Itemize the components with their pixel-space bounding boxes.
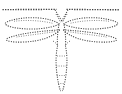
wing-upper-right-group	[64, 18, 118, 29]
wing-upper-left-outline	[5, 18, 59, 29]
wing-upper-right-outline	[64, 18, 118, 29]
antenna-right-stroke	[62, 10, 69, 22]
wing-lower-right-group	[63, 30, 116, 42]
thorax-left-edge	[57, 25, 59, 45]
abdomen-group	[56, 46, 67, 92]
abdomen-tail-tip	[60, 90, 63, 91]
drawing-canvas: Dragonfly dotted tracing outline	[0, 0, 122, 94]
wing-upper-left-vein	[14, 20, 53, 23]
wing-lower-left-group	[6, 30, 59, 42]
thorax-group	[53, 25, 70, 46]
wing-upper-left-group	[5, 18, 59, 29]
antenna-left-stroke	[55, 10, 62, 22]
dragonfly-figure	[0, 0, 122, 94]
head-vee-group	[55, 10, 68, 23]
thorax-right-edge	[64, 25, 66, 45]
wing-upper-right-vein	[70, 20, 109, 23]
